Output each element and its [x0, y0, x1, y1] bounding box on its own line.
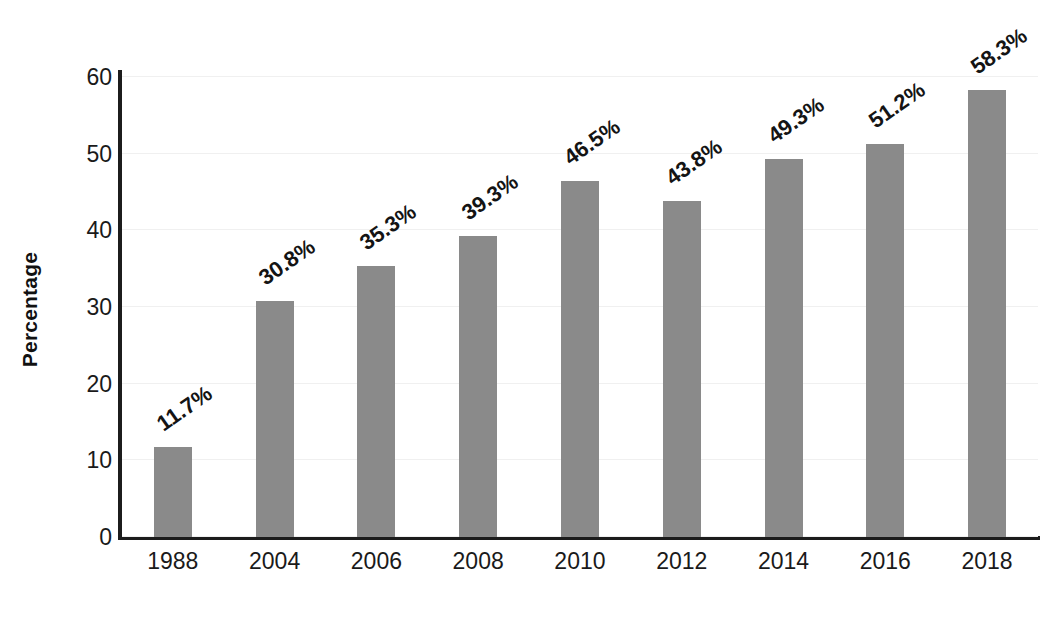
x-axis-tick-label: 2004 [224, 548, 326, 575]
y-axis-tick-label: 60 [52, 66, 112, 89]
y-axis-tick-label: 0 [52, 526, 112, 549]
x-axis-tick-label: 2018 [936, 548, 1038, 575]
y-axis-tick-labels: 0102030405060 [38, 0, 112, 619]
y-axis-tick-label: 40 [52, 219, 112, 242]
x-axis-tick-label: 2010 [529, 548, 631, 575]
x-axis-tick-label: 1988 [122, 548, 224, 575]
x-axis-tick-labels: 198820042006200820102012201420162018 [122, 0, 1038, 619]
x-axis-tick-label: 2016 [834, 548, 936, 575]
y-axis-tick-label: 50 [52, 142, 112, 165]
x-axis-tick-label: 2014 [733, 548, 835, 575]
y-axis-tick-label: 20 [52, 372, 112, 395]
bar-chart: Percentage 0102030405060 11.7%30.8%35.3%… [0, 0, 1060, 619]
x-axis-tick-label: 2008 [427, 548, 529, 575]
x-axis-tick-label: 2012 [631, 548, 733, 575]
y-axis-tick-label: 30 [52, 296, 112, 319]
y-axis-tick-label: 10 [52, 449, 112, 472]
x-axis-tick-label: 2006 [326, 548, 428, 575]
